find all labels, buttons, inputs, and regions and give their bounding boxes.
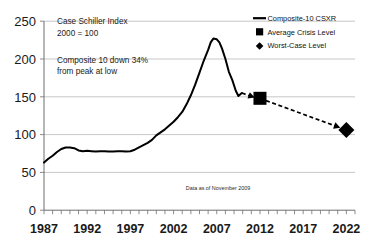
average-crisis-level-marker bbox=[253, 92, 266, 105]
x-label-1987: 1987 bbox=[30, 222, 58, 236]
index-title-line2: 2000 = 100 bbox=[57, 29, 99, 38]
data-date-footnote: Data as of November 2009 bbox=[186, 185, 250, 191]
x-label-1992: 1992 bbox=[73, 222, 101, 236]
y-label-50: 50 bbox=[22, 165, 36, 180]
chart-container: 250 200 150 100 50 0 1987 1992 1997 2002… bbox=[0, 0, 372, 245]
y-label-250: 250 bbox=[14, 14, 36, 29]
x-label-2017: 2017 bbox=[289, 222, 317, 236]
x-label-2007: 2007 bbox=[203, 222, 231, 236]
legend-label-composite: Composite-10 CSXR bbox=[268, 14, 337, 23]
y-label-0: 0 bbox=[29, 203, 36, 218]
x-label-2002: 2002 bbox=[160, 222, 188, 236]
case-shiller-index-chart: 250 200 150 100 50 0 1987 1992 1997 2002… bbox=[0, 0, 372, 245]
x-label-2012: 2012 bbox=[246, 222, 274, 236]
chart-background bbox=[0, 0, 372, 245]
legend-label-worst-case: Worst-Case Level bbox=[268, 41, 327, 50]
y-label-200: 200 bbox=[14, 52, 36, 67]
legend-label-average-crisis: Average Crisis Level bbox=[268, 28, 336, 37]
x-label-1997: 1997 bbox=[116, 222, 144, 236]
y-label-100: 100 bbox=[14, 127, 36, 142]
legend-square-icon bbox=[256, 28, 263, 35]
decline-note-line1: Composite 10 down 34% bbox=[57, 56, 148, 65]
index-title-line1: Case Schiller Index bbox=[57, 17, 128, 26]
y-label-150: 150 bbox=[14, 90, 36, 105]
decline-note-line2: from peak at low bbox=[57, 67, 117, 76]
x-label-2022: 2022 bbox=[332, 222, 360, 236]
